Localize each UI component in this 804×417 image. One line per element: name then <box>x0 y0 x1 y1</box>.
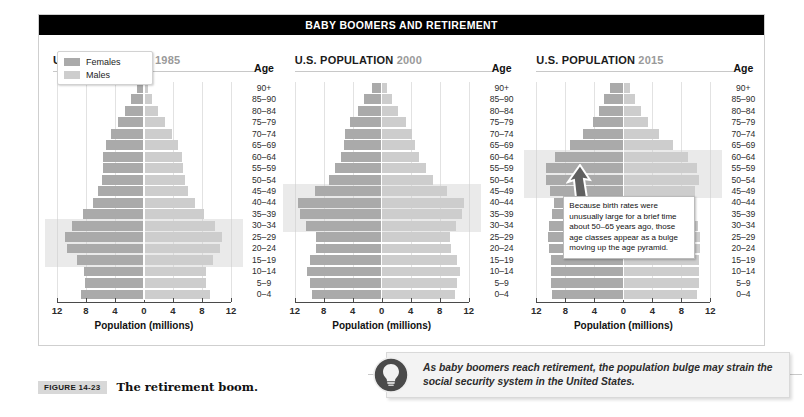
bar-females <box>583 129 624 139</box>
age-label: 15–19 <box>479 255 525 265</box>
age-label: 30–34 <box>479 220 525 230</box>
x-axis-tick <box>202 298 203 302</box>
age-label: 90+ <box>720 83 766 93</box>
bar-females <box>83 209 144 219</box>
x-axis-tick <box>594 298 595 302</box>
takeaway-note: As baby boomers reach retirement, the po… <box>386 352 790 398</box>
bar-males <box>382 244 451 254</box>
x-axis-line <box>57 302 231 303</box>
bar-males <box>382 290 455 300</box>
x-axis-tick <box>565 298 566 302</box>
bar-females <box>610 83 624 93</box>
x-axis-tick <box>652 298 653 302</box>
age-label: 70–74 <box>720 129 766 139</box>
bar-females <box>329 175 382 185</box>
figure-number: FIGURE 14-23 <box>38 381 107 394</box>
bar-females <box>593 117 623 127</box>
bar-females <box>344 140 382 150</box>
bar-females <box>364 94 381 104</box>
banner-title: BABY BOOMERS AND RETIREMENT <box>305 19 498 31</box>
bar-males <box>623 163 697 173</box>
bar-females <box>111 129 144 139</box>
bar-males <box>144 106 158 116</box>
x-axis-tick <box>57 298 58 302</box>
panel-title-year: 2015 <box>638 54 663 66</box>
bar-males <box>382 267 460 277</box>
x-axis-tick-label: 8 <box>679 305 684 316</box>
x-axis-tick-label: 4 <box>170 305 175 316</box>
x-axis-tick-label: 12 <box>463 305 474 316</box>
bar-males <box>382 278 457 288</box>
age-label: 65–69 <box>479 140 525 150</box>
bar-females <box>350 117 382 127</box>
bar-females <box>103 163 144 173</box>
x-axis-tick <box>681 298 682 302</box>
x-axis-tick <box>86 298 87 302</box>
age-label: 5–9 <box>479 278 525 288</box>
bar-males <box>623 94 635 104</box>
legend-row-males: Males <box>64 68 152 81</box>
pyramid-panel-2000: U.S. POPULATION 2000128404812Population … <box>281 35 523 347</box>
age-label: 40–44 <box>720 197 766 207</box>
bar-males <box>144 278 206 288</box>
x-axis-tick-label: 12 <box>531 305 542 316</box>
bar-males <box>144 290 210 300</box>
x-axis-title: Population (millions) <box>295 320 469 331</box>
legend-box: Females Males <box>57 51 153 85</box>
bar-females <box>312 290 382 300</box>
x-axis-tick-label: 4 <box>592 305 597 316</box>
age-label: 45–49 <box>479 186 525 196</box>
bar-females <box>310 278 382 288</box>
bar-females <box>570 140 624 150</box>
figure-frame: BABY BOOMERS AND RETIREMENT U.S. POPULAT… <box>38 14 765 346</box>
age-label: 15–19 <box>720 255 766 265</box>
bar-females <box>552 290 623 300</box>
bar-males <box>623 267 698 277</box>
x-axis-tick-label: 12 <box>705 305 716 316</box>
bar-males <box>144 221 215 231</box>
age-label: 20–24 <box>720 243 766 253</box>
bar-males <box>144 163 183 173</box>
legend-label-males: Males <box>86 70 110 80</box>
panel-title-text: U.S. POPULATION <box>536 54 635 66</box>
bar-females <box>306 221 381 231</box>
figure-caption: FIGURE 14-23 The retirement boom. <box>38 380 258 394</box>
bar-males <box>382 186 447 196</box>
legend-swatch-females <box>64 58 80 66</box>
bar-males <box>382 232 450 242</box>
bar-females <box>93 198 144 208</box>
legend-swatch-males <box>64 71 80 79</box>
bar-females <box>298 198 382 208</box>
x-axis-tick-label: 8 <box>321 305 326 316</box>
age-label: 40–44 <box>479 197 525 207</box>
age-label: 90+ <box>479 83 525 93</box>
x-axis-tick <box>353 298 354 302</box>
bar-females <box>81 290 144 300</box>
bar-females <box>307 267 382 277</box>
bar-males <box>623 83 630 93</box>
age-label: 55–59 <box>479 163 525 173</box>
bar-males <box>382 106 398 116</box>
x-axis-tick-label: 12 <box>289 305 300 316</box>
plot-area-2000 <box>295 82 469 300</box>
age-label: 10–14 <box>720 266 766 276</box>
bar-males <box>144 140 178 150</box>
bar-males <box>144 198 195 208</box>
bar-males <box>382 117 406 127</box>
x-axis-tick <box>411 298 412 302</box>
x-axis-tick-label: 12 <box>52 305 63 316</box>
bar-males <box>623 106 640 116</box>
legend-row-females: Females <box>64 55 152 68</box>
age-label: 0–4 <box>479 289 525 299</box>
bar-females <box>131 94 144 104</box>
age-label: 85–90 <box>479 94 525 104</box>
x-axis-tick-label: 8 <box>83 305 88 316</box>
bar-females <box>98 186 144 196</box>
x-axis-tick-label: 4 <box>408 305 413 316</box>
x-axis-tick <box>295 298 296 302</box>
age-label: 10–14 <box>479 266 525 276</box>
bar-females <box>118 117 144 127</box>
lightbulb-icon <box>373 357 409 393</box>
panel-title-year: 2000 <box>397 54 422 66</box>
pyramid-panel-2015: U.S. POPULATION 2015128404812Population … <box>522 35 764 347</box>
